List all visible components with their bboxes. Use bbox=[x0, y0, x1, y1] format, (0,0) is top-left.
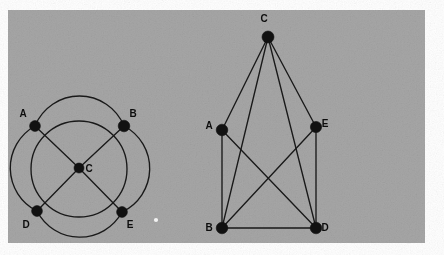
graph-right-node-D[interactable] bbox=[310, 222, 322, 234]
graph-right-node-A[interactable] bbox=[216, 124, 228, 136]
graph-right-node-C[interactable] bbox=[262, 31, 274, 43]
graph-figure-canvas: ABCDE CAEBD bbox=[0, 0, 444, 255]
diagram-panel bbox=[8, 10, 425, 243]
graph-left-node-label-C: C bbox=[85, 163, 92, 174]
graph-left-node-D[interactable] bbox=[32, 206, 43, 217]
graph-right-node-label-C: C bbox=[260, 13, 267, 24]
graph-left-node-label-B: B bbox=[129, 108, 136, 119]
graph-left-node-C[interactable] bbox=[74, 163, 84, 173]
graph-left-node-A[interactable] bbox=[30, 121, 41, 132]
graph-left-node-E[interactable] bbox=[117, 207, 128, 218]
graph-left-node-B[interactable] bbox=[118, 120, 130, 132]
graph-right-node-label-E: E bbox=[322, 118, 329, 129]
graph-right-node-B[interactable] bbox=[216, 222, 228, 234]
graph-right-node-label-A: A bbox=[205, 120, 212, 131]
scan-artifact-speck bbox=[154, 218, 158, 222]
graph-right-node-E[interactable] bbox=[310, 121, 321, 132]
figure-root: ABCDE CAEBD bbox=[0, 0, 444, 255]
graph-right-node-label-B: B bbox=[205, 222, 212, 233]
graph-left-node-label-E: E bbox=[127, 219, 134, 230]
graph-left-node-label-A: A bbox=[19, 108, 26, 119]
graph-right-node-label-D: D bbox=[321, 222, 328, 233]
graph-left-node-label-D: D bbox=[22, 219, 29, 230]
